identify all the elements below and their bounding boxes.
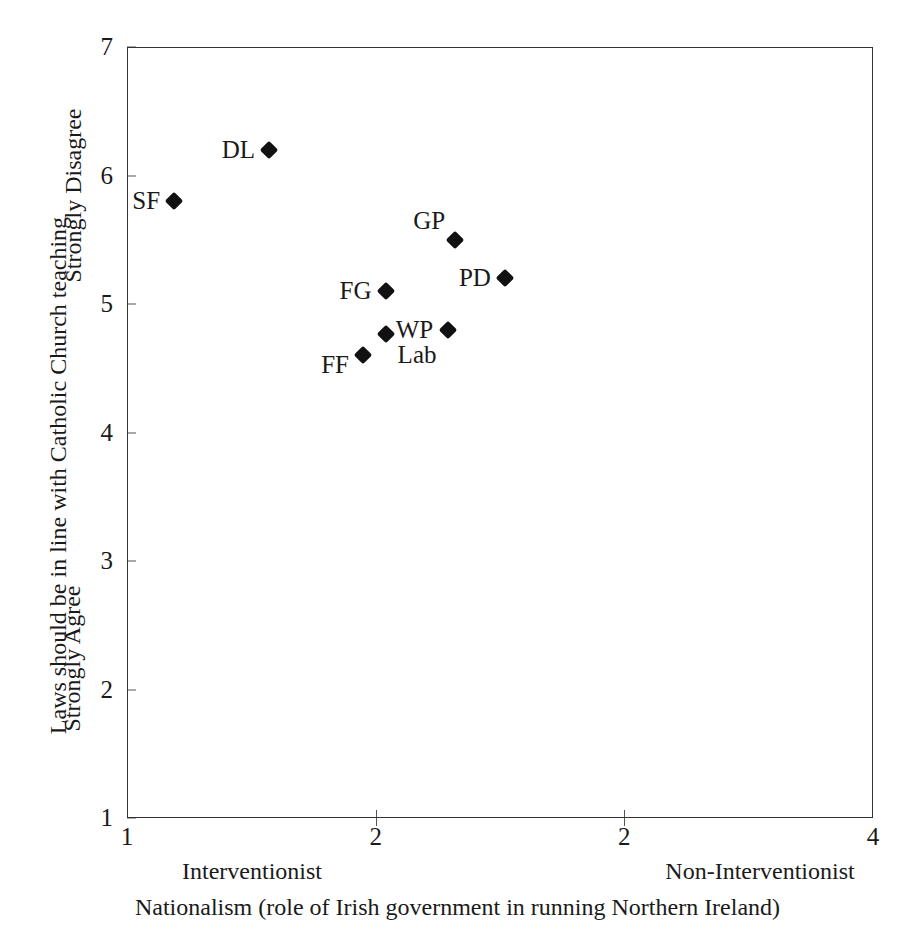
y-tick-label: 5 — [79, 291, 113, 316]
data-point-label: Lab — [398, 342, 437, 367]
data-point-label: FG — [340, 278, 372, 303]
data-point-label: GP — [413, 208, 445, 233]
y-tick-label: 2 — [79, 677, 113, 702]
data-point-label: PD — [459, 265, 491, 290]
y-tick-label: 6 — [79, 163, 113, 188]
y-tick-label: 3 — [79, 548, 113, 573]
x-tick-label: 2 — [356, 824, 396, 849]
data-point-label: WP — [396, 317, 434, 342]
data-point-label: SF — [132, 188, 160, 213]
y-tick-label: 7 — [79, 34, 113, 59]
scatter-plot-figure: Laws should be in line with Catholic Chu… — [0, 0, 915, 931]
y-tick-label: 4 — [79, 420, 113, 445]
x-tick-label: 4 — [853, 824, 893, 849]
x-tick-label: 1 — [107, 824, 147, 849]
x-axis-anchor-low: Interventionist — [127, 858, 377, 885]
data-point-label: DL — [222, 137, 255, 162]
x-tick-label: 2 — [604, 824, 644, 849]
x-axis-title: Nationalism (role of Irish government in… — [0, 894, 915, 921]
data-point-label: FF — [321, 352, 349, 377]
y-axis-anchor-low: Strongly Agree — [59, 556, 86, 761]
x-axis-anchor-high: Non-Interventionist — [625, 858, 895, 885]
y-axis-anchor-high: Strongly Disagree — [60, 91, 87, 301]
